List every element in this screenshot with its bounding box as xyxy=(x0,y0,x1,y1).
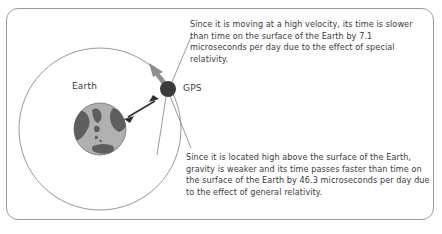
callout-general-relativity: Since it is located high above the surfa… xyxy=(186,152,430,198)
gps-satellite xyxy=(160,81,176,97)
figure-container: Earth GPS Since it is moving at a high v… xyxy=(0,0,442,234)
earth-label: Earth xyxy=(72,81,97,91)
gps-label: GPS xyxy=(183,83,202,93)
leader-line-secondary xyxy=(157,97,166,155)
altitude-arrow xyxy=(124,95,159,123)
callout-special-relativity: Since it is moving at a high velocity, i… xyxy=(190,19,426,65)
leader-line-special xyxy=(172,37,191,82)
